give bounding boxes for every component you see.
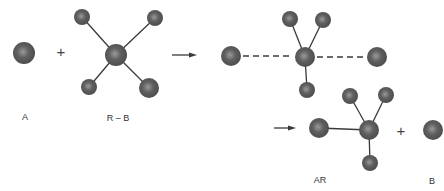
- atom-b: [423, 120, 443, 140]
- atom-b: [139, 78, 159, 98]
- atom-r-substituent: [81, 79, 97, 95]
- atom-a: [13, 42, 35, 64]
- reaction-diagram: +: [0, 0, 444, 191]
- transition-state: [221, 11, 387, 98]
- product-ar: [309, 87, 394, 171]
- atom-r-substituent: [74, 9, 90, 25]
- atom-r-center: [295, 47, 315, 67]
- atom-r-substituent: [282, 11, 298, 27]
- plus-sign-1: +: [57, 43, 66, 60]
- atom-r-center: [359, 120, 379, 140]
- label-b: B: [429, 176, 435, 186]
- reaction-arrow-2: [274, 126, 296, 131]
- atom-r-center: [105, 44, 127, 66]
- reactant-a: [13, 42, 35, 64]
- reaction-arrow-1: [172, 53, 197, 58]
- atom-r-substituent: [378, 87, 394, 103]
- atom-r-substituent: [342, 88, 358, 104]
- product-b: [423, 120, 443, 140]
- reactant-rb: [74, 9, 163, 98]
- atom-a-incoming: [221, 46, 241, 66]
- label-ar: AR: [314, 175, 327, 185]
- atom-a: [309, 118, 329, 138]
- atom-b-leaving: [367, 47, 387, 67]
- atom-r-substituent: [147, 10, 163, 26]
- label-a: A: [22, 112, 28, 122]
- label-rb: R – B: [107, 113, 130, 123]
- atom-r-substituent: [315, 12, 331, 28]
- atom-r-substituent: [362, 155, 378, 171]
- atom-r-substituent: [299, 82, 315, 98]
- plus-sign-2: +: [397, 122, 406, 139]
